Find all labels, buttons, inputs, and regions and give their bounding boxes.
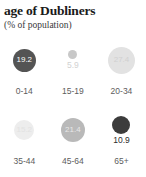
bubble-cell-15-19: 5.9 5.9 15-19 — [49, 36, 98, 106]
bubble-stack: 15.2 15.2 — [14, 120, 34, 140]
bubble-area: 21.4 21.4 — [49, 106, 98, 154]
bubble-value-label: 21.4 — [65, 126, 81, 134]
category-label-20-34: 20-34 — [97, 86, 146, 96]
bubble-value-label: 27.4 — [114, 56, 130, 64]
bubble-area: 27.4 27.4 — [97, 36, 146, 84]
category-label-0-14: 0-14 — [0, 86, 49, 96]
bubble-cell-65-plus: 10.9 10.9 65+ — [97, 106, 146, 176]
bubble-stack: 10.9 10.9 — [112, 116, 130, 145]
bubble-value-outside: 5.9 — [67, 61, 79, 70]
bubble-circle: 27.4 — [108, 47, 135, 74]
bubble-stack: 5.9 5.9 — [67, 50, 79, 70]
bubble-circle: 5.9 — [68, 50, 77, 59]
age-of-dubliners-infographic: age of Dubliners (% of population) 19.2 … — [0, 0, 146, 177]
bubble-circle: 15.2 — [14, 120, 34, 140]
bubble-circle: 10.9 — [112, 116, 130, 134]
bubble-stack: 19.2 19.2 — [13, 49, 36, 72]
category-label-45-64: 45-64 — [49, 156, 98, 166]
category-label-65-plus: 65+ — [97, 156, 146, 166]
bubble-area: 19.2 19.2 — [0, 36, 49, 84]
bubble-value-outside: 10.9 — [113, 136, 130, 145]
page-subtitle: (% of population) — [4, 20, 72, 30]
bubble-chart: 19.2 19.2 0-14 5.9 5.9 15-19 — [0, 36, 146, 176]
bubble-circle: 21.4 — [61, 118, 85, 142]
category-label-35-44: 35-44 — [0, 156, 49, 166]
bubble-area: 5.9 5.9 — [49, 36, 98, 84]
category-label-15-19: 15-19 — [49, 86, 98, 96]
bubble-stack: 27.4 27.4 — [108, 47, 135, 74]
bubble-area: 15.2 15.2 — [0, 106, 49, 154]
bubble-value-label: 19.2 — [17, 56, 33, 64]
bubble-cell-35-44: 15.2 15.2 35-44 — [0, 106, 49, 176]
bubble-cell-45-64: 21.4 21.4 45-64 — [49, 106, 98, 176]
bubble-area: 10.9 10.9 — [97, 106, 146, 154]
bubble-cell-0-14: 19.2 19.2 0-14 — [0, 36, 49, 106]
bubble-stack: 21.4 21.4 — [61, 118, 85, 142]
bubble-value-label: 15.2 — [17, 126, 33, 134]
bubble-circle: 19.2 — [13, 49, 36, 72]
bubble-cell-20-34: 27.4 27.4 20-34 — [97, 36, 146, 106]
page-title: age of Dubliners — [4, 3, 95, 19]
